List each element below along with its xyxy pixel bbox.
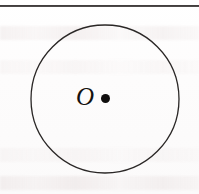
center-point-label: O — [76, 84, 94, 109]
figure-canvas: O — [0, 0, 199, 194]
center-point-dot-icon — [101, 94, 110, 103]
diagram-svg — [0, 0, 199, 194]
